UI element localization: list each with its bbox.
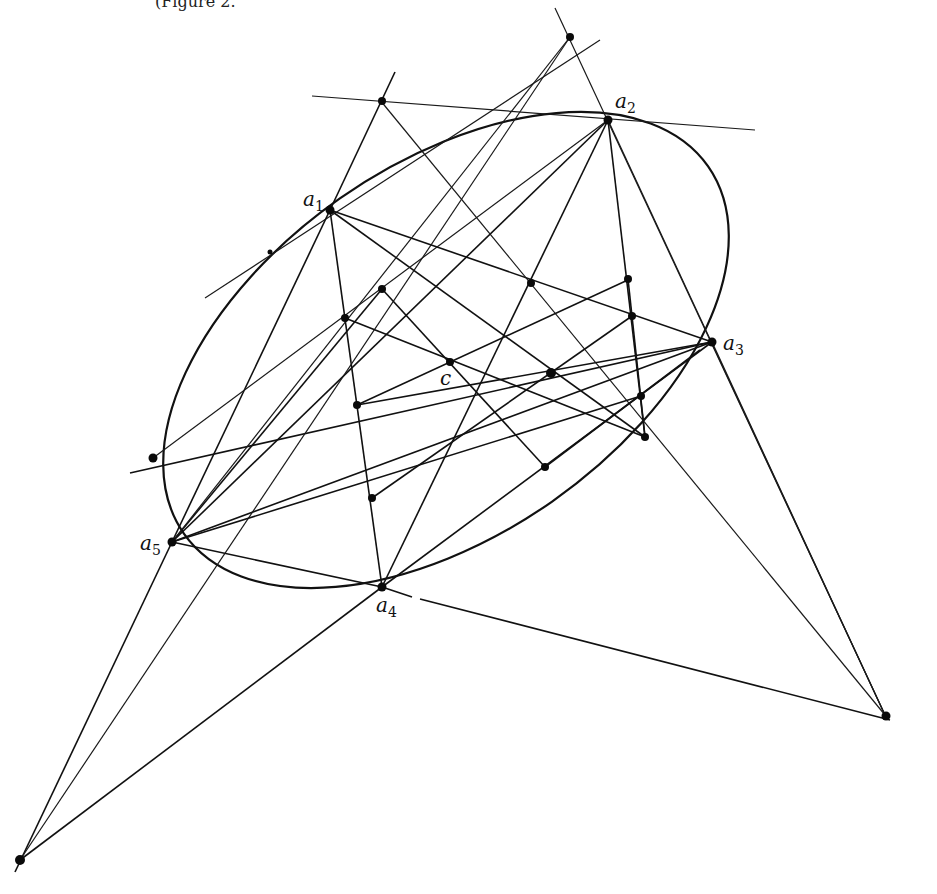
label-c: c — [440, 366, 451, 390]
point-a5 — [168, 538, 177, 547]
points — [15, 33, 891, 865]
conic-ellipse — [78, 15, 814, 685]
label-a5: a5 — [140, 531, 161, 558]
label-a4: a4 — [376, 593, 397, 620]
point-a2 — [604, 116, 613, 125]
point-c — [446, 358, 454, 366]
conic-construction-diagram: a1 a2 a3 a4 a5 c — [0, 0, 937, 894]
label-a2: a2 — [615, 89, 636, 116]
point-a4 — [378, 583, 387, 592]
point-a1 — [326, 206, 335, 215]
point-a3 — [708, 338, 717, 347]
label-a3: a3 — [723, 331, 744, 358]
label-a1: a1 — [303, 187, 324, 214]
